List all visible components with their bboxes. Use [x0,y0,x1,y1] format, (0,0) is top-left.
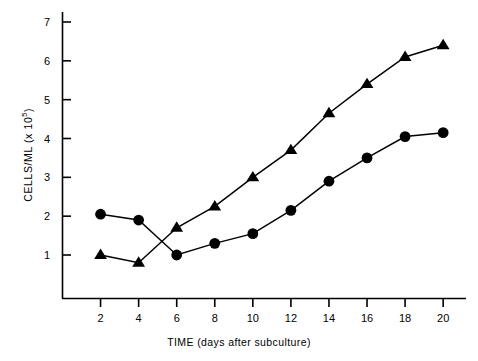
y-tick-label: 1 [44,249,50,261]
x-tick-label: 2 [98,312,104,324]
series-line [101,45,444,262]
y-tick-label: 5 [44,94,50,106]
y-tick-label: 7 [44,16,50,28]
x-tick-label: 18 [399,312,411,324]
series-triangle [94,39,449,267]
x-tick-label: 8 [212,312,218,324]
y-axis-title: CELLS/ML (x 105) [20,65,34,245]
plot-area: 1234567 2468101214161820 [0,0,478,361]
data-point-triangle [208,200,221,210]
y-tick-label: 2 [44,210,50,222]
x-tick-label: 20 [437,312,449,324]
data-point-circle [324,176,335,187]
y-axis-title-exponent: 5 [20,112,29,117]
x-tick-marks [101,299,444,308]
data-series-group [94,39,449,267]
data-point-circle [171,250,182,261]
x-tick-label: 14 [323,312,335,324]
data-point-triangle [94,249,107,259]
x-tick-label: 10 [247,312,259,324]
y-tick-labels: 1234567 [44,16,50,261]
data-point-triangle [323,107,336,117]
x-tick-labels: 2468101214161820 [98,312,450,324]
data-point-triangle [361,78,374,88]
y-tick-label: 6 [44,55,50,67]
data-point-triangle [437,39,450,49]
data-point-circle [95,209,106,220]
data-point-circle [209,238,220,249]
series-line [101,133,444,255]
y-axis-title-base: CELLS/ML (x 10 [22,117,34,202]
x-axis-title: TIME (days after subculture) [0,336,478,348]
x-tick-label: 12 [285,312,297,324]
y-tick-label: 3 [44,171,50,183]
data-point-circle [286,205,297,216]
y-tick-marks [63,22,72,255]
data-point-circle [133,215,144,226]
data-point-circle [438,127,449,138]
x-tick-label: 4 [136,312,142,324]
x-tick-label: 6 [174,312,180,324]
x-tick-label: 16 [361,312,373,324]
data-point-circle [400,131,411,142]
data-point-circle [362,153,373,164]
y-tick-label: 4 [44,133,50,145]
data-point-triangle [246,171,259,181]
data-point-circle [247,228,258,239]
y-axis-title-close: ) [22,108,34,112]
data-point-triangle [170,221,183,231]
series-circle [95,127,448,260]
line-chart: 1234567 2468101214161820 CELLS/ML (x 105… [0,0,478,361]
